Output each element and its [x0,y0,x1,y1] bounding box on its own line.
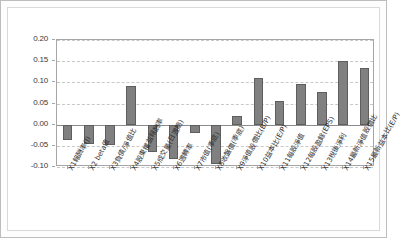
y-tick-label: 0.10 [8,77,48,85]
y-tick-label: -0.10 [8,162,48,170]
y-tick-mark [52,39,55,40]
y-tick-label: -0.05 [8,141,48,149]
bar [190,125,200,133]
y-tick-label: 0.15 [8,56,48,64]
y-tick-mark [52,166,55,167]
y-axis-labels: 0.200.150.100.050.00-0.05-0.10 [8,8,52,230]
y-tick-mark [52,145,55,146]
gridline [57,40,373,41]
gridline [57,61,373,62]
y-tick-mark [52,124,55,125]
y-tick-mark [52,103,55,104]
bar [63,125,73,140]
bar [254,78,264,125]
y-tick-mark [52,81,55,82]
bar [275,101,285,124]
bar [232,116,242,125]
gridline [57,82,373,83]
bar [296,84,306,125]
bar [360,68,370,125]
x-axis-labels: X1報酬率(J)X2 beta值X3負債/淨值比X4股東權益報酬率X5成交量(日… [56,166,374,240]
y-tick-label: 0.20 [8,35,48,43]
bar [338,61,348,125]
bar [126,86,136,125]
y-tick-mark [52,60,55,61]
chart-canvas: 0.200.150.100.050.00-0.05-0.10 X1報酬率(J)X… [7,7,380,231]
y-tick-label: 0.00 [8,120,48,128]
y-tick-label: 0.05 [8,99,48,107]
